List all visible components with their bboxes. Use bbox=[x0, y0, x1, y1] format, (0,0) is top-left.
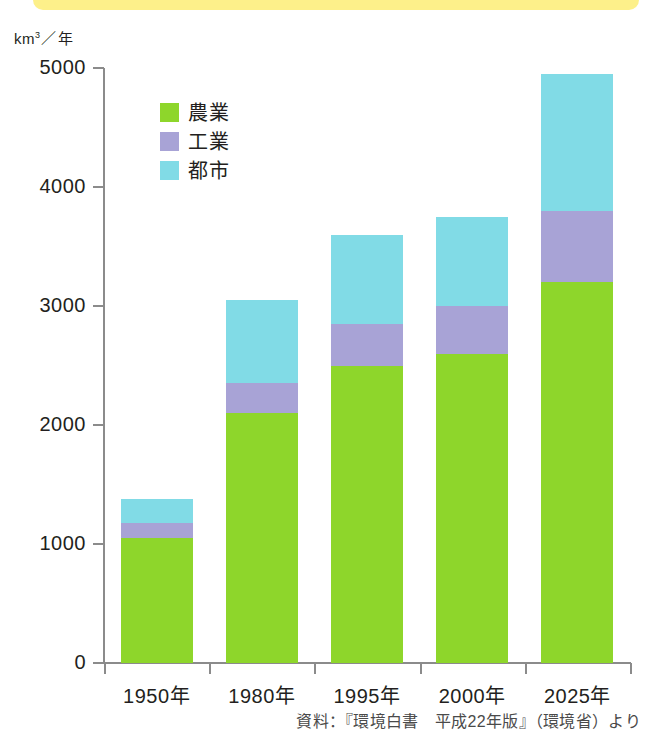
y-axis-tick-label: 1000 bbox=[40, 532, 87, 555]
bar-segment-工業 bbox=[541, 211, 613, 282]
bar-2000年 bbox=[436, 217, 508, 663]
legend-item-kogyo: 工業 bbox=[160, 131, 230, 152]
bar-segment-都市 bbox=[436, 217, 508, 306]
y-axis-tick: 1000 bbox=[93, 543, 104, 545]
chart-legend: 農業工業都市 bbox=[160, 102, 230, 181]
x-axis-tick bbox=[420, 663, 422, 674]
bar-segment-農業 bbox=[226, 413, 298, 663]
bar-1980年 bbox=[226, 300, 298, 663]
legend-swatch-icon bbox=[160, 132, 179, 151]
legend-item-toshi: 都市 bbox=[160, 160, 230, 181]
bar-segment-工業 bbox=[121, 523, 193, 538]
bar-segment-工業 bbox=[226, 383, 298, 413]
legend-item-nogyo: 農業 bbox=[160, 102, 230, 123]
bar-2025年 bbox=[541, 74, 613, 663]
bar-segment-都市 bbox=[541, 74, 613, 211]
bar-segment-工業 bbox=[436, 306, 508, 354]
y-axis-tick: 5000 bbox=[93, 67, 104, 69]
y-axis-tick-label: 0 bbox=[74, 651, 86, 674]
bar-segment-農業 bbox=[436, 354, 508, 663]
x-axis-tick bbox=[209, 663, 211, 674]
y-axis-tick-label: 5000 bbox=[40, 56, 87, 79]
y-axis-tick: 0 bbox=[93, 662, 104, 664]
stacked-bar-chart: 010002000300040005000 1950年1980年1995年200… bbox=[0, 0, 649, 700]
legend-item-label: 工業 bbox=[188, 132, 230, 152]
bar-1995年 bbox=[331, 235, 403, 663]
y-axis-tick-label: 3000 bbox=[40, 294, 87, 317]
x-axis-tick bbox=[104, 663, 106, 674]
bar-segment-農業 bbox=[541, 282, 613, 663]
y-axis-tick: 3000 bbox=[93, 305, 104, 307]
x-axis-tick bbox=[525, 663, 527, 674]
bar-segment-農業 bbox=[121, 538, 193, 663]
bar-segment-工業 bbox=[331, 324, 403, 366]
x-axis-tick bbox=[630, 663, 632, 674]
legend-swatch-icon bbox=[160, 161, 179, 180]
bar-segment-都市 bbox=[226, 300, 298, 383]
bar-1950年 bbox=[121, 499, 193, 663]
legend-item-label: 都市 bbox=[188, 161, 230, 181]
x-axis-label-2025年: 2025年 bbox=[507, 680, 647, 709]
y-axis-tick-label: 2000 bbox=[40, 413, 87, 436]
y-axis-tick: 4000 bbox=[93, 186, 104, 188]
bar-segment-都市 bbox=[331, 235, 403, 324]
bar-segment-都市 bbox=[121, 499, 193, 523]
legend-item-label: 農業 bbox=[188, 103, 230, 123]
source-note: 資料：『環境白書 平成22年版』（環境省）より bbox=[296, 708, 641, 732]
y-axis-tick-label: 4000 bbox=[40, 175, 87, 198]
legend-swatch-icon bbox=[160, 103, 179, 122]
x-axis-tick bbox=[314, 663, 316, 674]
y-axis-tick: 2000 bbox=[93, 424, 104, 426]
bar-segment-農業 bbox=[331, 366, 403, 664]
